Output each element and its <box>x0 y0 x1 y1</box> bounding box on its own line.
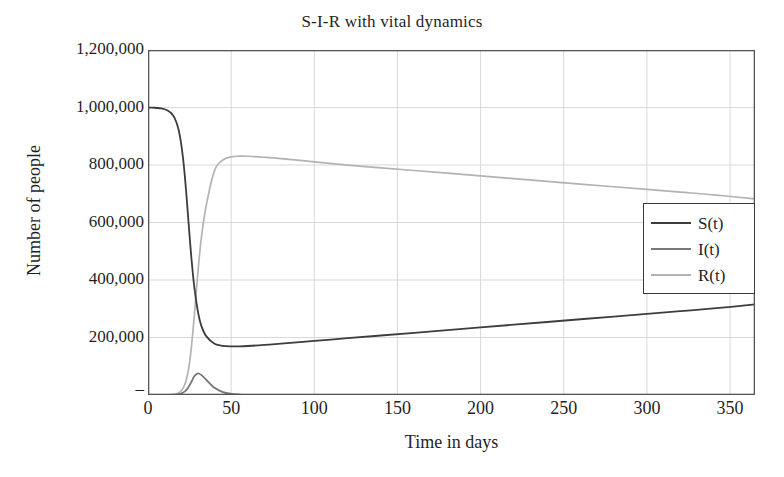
x-tick-label: 150 <box>352 398 442 419</box>
legend-label: S(t) <box>698 215 724 232</box>
x-tick-label: 0 <box>103 398 193 419</box>
x-tick-label: 250 <box>519 398 609 419</box>
legend-swatch-icon <box>651 222 691 224</box>
x-tick-label: 50 <box>186 398 276 419</box>
series-line-it <box>148 373 755 395</box>
chart-figure: S-I-R with vital dynamics Number of peop… <box>0 0 784 477</box>
x-tick-label: 300 <box>602 398 692 419</box>
legend-item[interactable]: I(t) <box>644 236 754 262</box>
legend-label: R(t) <box>698 267 725 284</box>
x-tick-label: 350 <box>685 398 775 419</box>
legend-swatch-icon <box>651 248 691 250</box>
legend-item[interactable]: R(t) <box>644 262 754 288</box>
x-tick-label: 200 <box>436 398 526 419</box>
x-tick-label: 100 <box>269 398 359 419</box>
legend-item[interactable]: S(t) <box>644 210 754 236</box>
chart-legend: S(t)I(t)R(t) <box>643 203 755 294</box>
legend-label: I(t) <box>698 241 720 258</box>
legend-swatch-icon <box>651 274 691 276</box>
